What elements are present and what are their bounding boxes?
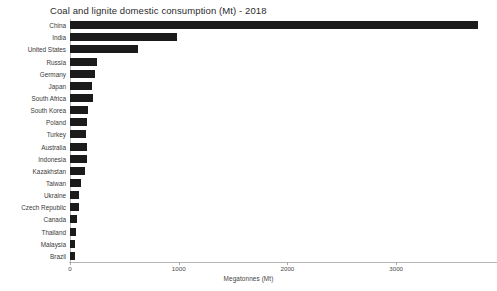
bar-category-label: Poland	[46, 119, 66, 126]
bar-category-label: South Korea	[30, 107, 66, 114]
bar-category-label: Czech Republic	[21, 204, 66, 211]
bar-rect	[70, 21, 478, 29]
plot-area: ChinaIndiaUnited StatesRussiaGermanyJapa…	[70, 19, 494, 262]
bar-rect	[70, 203, 79, 211]
bar-row: Kazakhstan	[70, 165, 494, 176]
bar-category-label: Thailand	[41, 228, 66, 235]
bar-row: Indonesia	[70, 153, 494, 164]
bar-category-label: India	[52, 34, 66, 41]
chart-title: Coal and lignite domestic consumption (M…	[50, 5, 267, 16]
bar-rect	[70, 167, 85, 175]
bar-category-label: United States	[28, 46, 66, 53]
bar-rect	[70, 118, 87, 126]
bar-row: Australia	[70, 141, 494, 152]
bar-rect	[70, 143, 87, 151]
bar-category-label: Ukraine	[44, 192, 66, 199]
bar-category-label: Kazakhstan	[33, 167, 66, 174]
bar-row: Germany	[70, 68, 494, 79]
bar-row: Poland	[70, 117, 494, 128]
bar-category-label: Russia	[46, 58, 66, 65]
bar-row: Brazil	[70, 250, 494, 261]
x-axis-tick-label: 2000	[281, 265, 295, 272]
bar-rect	[70, 130, 86, 138]
bar-category-label: Brazil	[50, 252, 66, 259]
bar-rect	[70, 70, 95, 78]
bar-row: Japan	[70, 80, 494, 91]
bar-category-label: China	[49, 22, 66, 29]
bar-rect	[70, 191, 79, 199]
bar-rect	[70, 45, 138, 53]
x-axis-tick-label: 3000	[389, 265, 403, 272]
bar-category-label: Australia	[41, 143, 66, 150]
bar-rect	[70, 58, 97, 66]
bar-rect	[70, 252, 75, 260]
bar-row: South Africa	[70, 92, 494, 103]
bar-category-label: Japan	[49, 82, 66, 89]
bar-row: Ukraine	[70, 190, 494, 201]
chart-figure: Coal and lignite domestic consumption (M…	[0, 0, 497, 291]
x-axis-title: Megatonnes (Mt)	[0, 275, 497, 282]
bar-row: Czech Republic	[70, 202, 494, 213]
bar-row: Thailand	[70, 226, 494, 237]
bar-category-label: Canada	[44, 216, 66, 223]
bar-category-label: Turkey	[47, 131, 66, 138]
bar-row: Turkey	[70, 129, 494, 140]
bar-category-label: Malaysia	[41, 240, 66, 247]
bar-row: China	[70, 19, 494, 30]
bar-rect	[70, 94, 93, 102]
bar-rect	[70, 179, 81, 187]
bar-rect	[70, 228, 76, 236]
bar-row: United States	[70, 44, 494, 55]
bar-category-label: Indonesia	[38, 155, 66, 162]
bar-rect	[70, 106, 88, 114]
bar-rect	[70, 215, 77, 223]
bar-row: Taiwan	[70, 177, 494, 188]
bar-row: Malaysia	[70, 238, 494, 249]
bar-category-label: Germany	[40, 70, 66, 77]
x-axis-tick-label: 1000	[172, 265, 186, 272]
bar-category-label: South Africa	[32, 94, 66, 101]
bar-row: Russia	[70, 56, 494, 67]
bar-row: Canada	[70, 214, 494, 225]
bar-rect	[70, 155, 87, 163]
bar-rect	[70, 33, 177, 41]
x-axis-tick-label: 0	[68, 265, 71, 272]
bar-rect	[70, 82, 92, 90]
bar-category-label: Taiwan	[46, 180, 66, 187]
bar-row: South Korea	[70, 105, 494, 116]
bar-row: India	[70, 32, 494, 43]
bar-rect	[70, 240, 75, 248]
